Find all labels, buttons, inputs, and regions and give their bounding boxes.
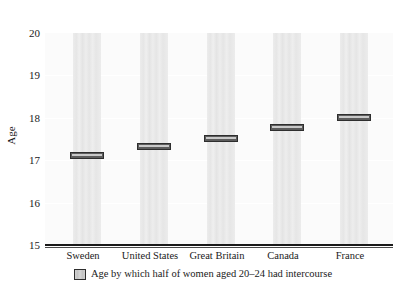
y-axis-tick-label: 20 — [18, 28, 40, 39]
bar-france — [340, 33, 368, 245]
plot-area — [45, 33, 393, 245]
y-axis-tick-label: 15 — [18, 240, 40, 251]
marker-sweden — [70, 152, 104, 159]
y-axis-tick-group: 20 19 18 17 16 15 — [14, 0, 40, 299]
marker-united-states — [137, 143, 171, 150]
legend-label: Age by which half of women aged 20–24 ha… — [91, 268, 332, 280]
chart-container: Age 20 19 18 17 16 15 Sweden United Stat… — [0, 0, 406, 299]
y-axis-tick-label: 19 — [18, 70, 40, 81]
bar-united-states — [140, 33, 168, 245]
x-axis-line-secondary — [45, 247, 393, 248]
legend: Age by which half of women aged 20–24 ha… — [0, 268, 406, 280]
bar-canada — [273, 33, 301, 245]
marker-great-britain — [204, 135, 238, 142]
legend-swatch-icon — [74, 269, 86, 280]
marker-france — [337, 114, 371, 121]
y-axis-tick-label: 18 — [18, 113, 40, 124]
x-axis-label-france: France — [310, 250, 390, 262]
y-axis-tick-label: 16 — [18, 198, 40, 209]
marker-canada — [270, 124, 304, 131]
y-axis-tick-label: 17 — [18, 155, 40, 166]
x-axis-line — [45, 244, 393, 246]
bar-sweden — [73, 33, 101, 245]
